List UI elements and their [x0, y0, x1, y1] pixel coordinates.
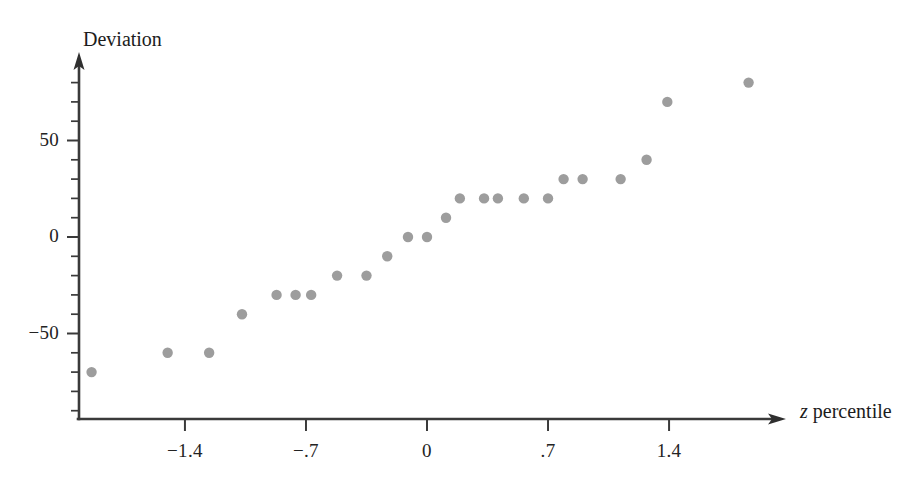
- x-tick-label: .7: [508, 440, 588, 462]
- x-tick-label: −1.4: [145, 440, 225, 462]
- data-point: [290, 290, 300, 300]
- data-points-layer: [86, 77, 753, 377]
- data-point: [332, 270, 342, 280]
- data-point: [558, 174, 568, 184]
- data-point: [615, 174, 625, 184]
- plot-canvas: [0, 0, 908, 477]
- data-point: [479, 193, 489, 203]
- y-axis-ticks: [67, 83, 79, 411]
- x-tick-label: −.7: [266, 440, 346, 462]
- data-point: [403, 232, 413, 242]
- data-point: [441, 213, 451, 223]
- data-point: [306, 290, 316, 300]
- data-point: [422, 232, 432, 242]
- x-axis-title-variable: z: [800, 400, 808, 422]
- data-point: [662, 97, 672, 107]
- data-point: [382, 251, 392, 261]
- data-point: [641, 155, 651, 165]
- data-point: [743, 77, 753, 87]
- data-point: [455, 193, 465, 203]
- normal-probability-plot: Deviation z percentile 500−50 −1.4−.70.7…: [0, 0, 908, 477]
- data-point: [204, 348, 214, 358]
- data-point: [237, 309, 247, 319]
- data-point: [271, 290, 281, 300]
- data-point: [519, 193, 529, 203]
- x-axis-title-rest: percentile: [808, 400, 892, 422]
- x-axis-title: z percentile: [800, 400, 892, 423]
- data-point: [543, 193, 553, 203]
- y-tick-label: −50: [0, 322, 59, 344]
- y-axis-title-text: Deviation: [83, 28, 162, 50]
- x-axis-ticks: [185, 419, 669, 431]
- data-point: [577, 174, 587, 184]
- y-tick-label: 0: [0, 225, 59, 247]
- data-point: [86, 367, 96, 377]
- x-tick-label: 1.4: [629, 440, 709, 462]
- data-point: [493, 193, 503, 203]
- y-axis-title: Deviation: [83, 28, 162, 51]
- x-tick-label: 0: [387, 440, 467, 462]
- y-tick-label: 50: [0, 129, 59, 151]
- data-point: [361, 270, 371, 280]
- data-point: [162, 348, 172, 358]
